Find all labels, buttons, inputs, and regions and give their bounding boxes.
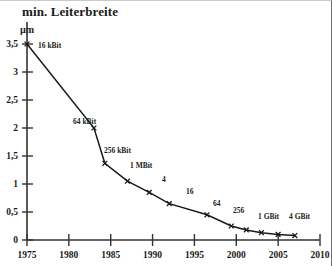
y-tick-label: 2 [13, 123, 18, 133]
data-point-label: 1 GBit [258, 212, 280, 221]
x-tick-label: 2005 [269, 250, 288, 260]
x-tick-label: 2000 [227, 250, 246, 260]
data-point-label: 256 kBit [104, 146, 131, 155]
y-tick-label: 1,5 [6, 151, 18, 161]
plot-area: 00,511,522,533,5 19751980198519901995200… [0, 0, 332, 266]
y-tick-label: 3,5 [6, 39, 18, 49]
data-point-label: 4 GBit [289, 212, 311, 221]
y-tick-label: 2,5 [6, 95, 18, 105]
data-point-marker [125, 179, 130, 184]
data-point-label: 256 [233, 206, 245, 215]
data-point-label: 1 MBit [130, 161, 153, 170]
data-point-label: 64 [213, 199, 221, 208]
data-point-label: 64 kBit [73, 117, 97, 126]
x-tick-label: 1995 [185, 250, 204, 260]
data-point-label: 4 [162, 175, 166, 184]
x-tick-label: 1990 [143, 250, 162, 260]
y-tick-label: 0 [13, 235, 18, 245]
y-axis-ticks: 00,511,522,533,5 [6, 39, 33, 245]
x-tick-label: 2010 [311, 250, 330, 260]
x-axis-ticks: 19751980198519901995200020052010 [18, 234, 330, 260]
series-line [27, 44, 295, 236]
data-point-annotations: 16 kBit64 kBit256 kBit1 MBit416642561 GB… [38, 41, 311, 221]
x-axis: 19751980198519901995200020052010 [18, 234, 330, 260]
y-tick-label: 3 [13, 67, 18, 77]
data-point-label: 16 [186, 187, 194, 196]
data-point-marker [147, 190, 152, 195]
data-series [25, 42, 298, 238]
y-tick-label: 0,5 [6, 207, 18, 217]
y-axis: 00,511,522,533,5 [6, 22, 33, 245]
series-markers [25, 42, 298, 238]
x-tick-label: 1985 [101, 250, 120, 260]
data-point-label: 16 kBit [38, 41, 62, 50]
y-tick-label: 1 [13, 179, 18, 189]
x-tick-label: 1975 [18, 250, 37, 260]
chart-figure: min. Leiterbreite µm 00,511,522,533,5 19… [0, 0, 332, 266]
x-tick-label: 1980 [59, 250, 78, 260]
